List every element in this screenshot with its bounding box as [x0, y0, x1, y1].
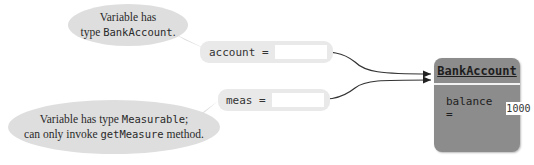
- object-class-name: BankAccount: [434, 58, 520, 85]
- callout-measurable-type: Variable has type Measurable; can only i…: [8, 100, 220, 154]
- balance-value: 1000: [506, 102, 534, 115]
- bankaccount-object: BankAccount balance = 1000: [434, 58, 520, 152]
- field-balance: balance = 1000: [434, 85, 520, 121]
- meas-reference-slot: [272, 93, 324, 107]
- account-reference-slot: [275, 45, 327, 59]
- variable-meas: meas =: [218, 89, 330, 111]
- variable-account: account =: [200, 41, 333, 63]
- callout-bankaccount-type: Variable has type BankAccount.: [68, 4, 188, 46]
